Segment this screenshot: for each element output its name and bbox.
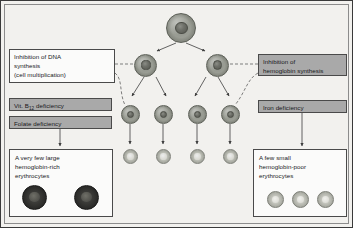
b12-suffix: deficiency bbox=[34, 102, 64, 109]
stem-cell bbox=[166, 13, 196, 43]
folate-deficiency-box: Folate deficiency bbox=[9, 116, 112, 129]
cell-nucleus bbox=[141, 60, 150, 69]
arrow-gen1-to-gen2-right bbox=[186, 43, 205, 51]
cell-nucleus bbox=[194, 111, 201, 118]
mature-erythrocyte bbox=[123, 149, 138, 164]
dna-box-line3: (cell multiplication) bbox=[14, 71, 110, 80]
mature-erythrocyte bbox=[156, 149, 171, 164]
iron-label: Iron deficiency bbox=[263, 104, 304, 111]
right-outcome-line2: hemoglobin-poor bbox=[259, 163, 341, 172]
mature-erythrocyte bbox=[223, 149, 238, 164]
left-outcome-line1: A very few large bbox=[15, 154, 107, 163]
macrocytic-outcome-box: A very few large hemoglobin-rich erythro… bbox=[9, 149, 113, 217]
progenitor-cell-gen3 bbox=[154, 105, 173, 124]
arrow-gen1-to-gen2-left bbox=[157, 43, 176, 51]
microcyte-cell bbox=[317, 191, 334, 208]
b12-prefix: Vit. B bbox=[14, 102, 29, 109]
macrocyte-cell bbox=[74, 185, 99, 210]
inhibition-dna-synthesis-box: Inhibition of DNA synthesis (cell multip… bbox=[9, 49, 115, 83]
left-outcome-line3: erythrocytes bbox=[15, 172, 107, 181]
inhibition-hemoglobin-synthesis-box: Inhibition of hemoglobin synthesis bbox=[258, 54, 347, 76]
cell-nucleus bbox=[227, 111, 234, 118]
dna-box-line1: Inhibition of DNA bbox=[14, 53, 110, 62]
cell-nucleus bbox=[213, 60, 222, 69]
left-outcome-line2: hemoglobin-rich bbox=[15, 163, 107, 172]
arrow-gen2l-to-gen3b bbox=[156, 77, 166, 96]
dashed-hb-to-gen3 bbox=[235, 73, 258, 105]
cell-nucleus bbox=[175, 22, 188, 35]
erythropoiesis-diagram: Inhibition of DNA synthesis (cell multip… bbox=[0, 0, 353, 228]
progenitor-cell-gen3 bbox=[221, 105, 240, 124]
vitamin-b12-deficiency-box: Vit. B12 deficiency bbox=[9, 98, 112, 111]
arrow-gen2l-to-gen3a bbox=[132, 77, 144, 96]
cell-nucleus bbox=[160, 111, 167, 118]
right-outcome-line3: erythrocytes bbox=[259, 172, 341, 181]
dashed-dna-to-gen3 bbox=[115, 73, 125, 105]
cell-nucleus bbox=[127, 111, 134, 118]
microcyte-cell bbox=[292, 191, 309, 208]
microcyte-cell bbox=[267, 191, 284, 208]
folate-label: Folate deficiency bbox=[14, 120, 61, 127]
hb-box-line1: Inhibition of bbox=[263, 58, 342, 67]
macrocyte-cell bbox=[22, 185, 47, 210]
dna-box-line2: synthesis bbox=[14, 62, 110, 71]
progenitor-cell-gen3 bbox=[121, 105, 140, 124]
arrow-gen2r-to-gen3c bbox=[195, 77, 206, 96]
progenitor-cell-gen3 bbox=[188, 105, 207, 124]
right-outcome-line1: A few small bbox=[259, 154, 341, 163]
arrow-gen2r-to-gen3d bbox=[218, 77, 229, 96]
iron-deficiency-box: Iron deficiency bbox=[258, 100, 347, 113]
progenitor-cell-gen2 bbox=[206, 54, 229, 77]
progenitor-cell-gen2 bbox=[134, 54, 157, 77]
mature-erythrocyte bbox=[190, 149, 205, 164]
hb-box-line2: hemoglobin synthesis bbox=[263, 67, 342, 76]
